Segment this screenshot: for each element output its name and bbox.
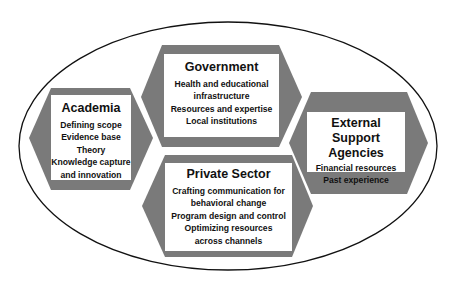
- academia-item: and innovation: [51, 169, 131, 181]
- private-sector-item: behavioral change: [165, 197, 292, 209]
- government-item: Resources and expertise: [164, 103, 279, 115]
- academia-item: Defining scope: [51, 119, 131, 131]
- private-sector-item: Crafting communication for: [165, 185, 292, 197]
- government-item: Local institutions: [164, 115, 279, 127]
- private-sector-item: Program design and control: [165, 210, 292, 222]
- academia-item: Evidence base: [51, 131, 131, 143]
- private-sector-box: Private Sector Crafting communication fo…: [165, 163, 292, 251]
- private-sector-item: Optimizing resources: [165, 222, 292, 234]
- government-item: Health and educational: [164, 78, 279, 90]
- academia-title: Academia: [51, 101, 131, 116]
- external-support-box: External Support Agencies Financial reso…: [307, 112, 405, 172]
- private-sector-title: Private Sector: [165, 167, 292, 182]
- external-support-item: Past experience: [307, 174, 405, 186]
- external-support-item: Financial resources: [307, 162, 405, 174]
- government-title: Government: [164, 60, 279, 75]
- private-sector-item: across channels: [165, 235, 292, 247]
- academia-item: Knowledge capture: [51, 156, 131, 168]
- government-box: Government Health and educational infras…: [164, 54, 279, 137]
- academia-item: Theory: [51, 144, 131, 156]
- external-support-title-line: External Support: [307, 116, 405, 146]
- external-support-title-line: Agencies: [307, 146, 405, 161]
- government-item: infrastructure: [164, 90, 279, 102]
- academia-box: Academia Defining scope Evidence base Th…: [51, 95, 131, 180]
